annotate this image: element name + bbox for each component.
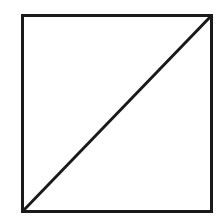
square-diagonal-diagram: [0, 0, 217, 221]
diagonal-line: [23, 16, 211, 211]
